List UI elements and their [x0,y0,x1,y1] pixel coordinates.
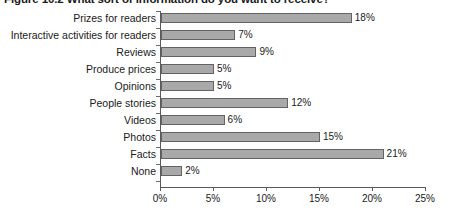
bar-value-label: 2% [185,165,199,176]
category-label: Prizes for readers [73,12,156,24]
figure-bar-chart: Figure 10.2 What sort of information do … [0,0,450,218]
x-tick-label: 20% [362,193,382,204]
category-label: None [131,165,156,177]
category-label: Videos [124,114,156,126]
bar-value-label: 6% [228,114,242,125]
bar [161,81,214,91]
category-label: People stories [89,97,156,109]
bar-value-label: 18% [355,12,375,23]
bar [161,64,214,74]
x-tick-label: 25% [415,193,435,204]
x-tick-mark [160,187,161,191]
bar-row: Prizes for readers18% [0,11,450,28]
bar [161,98,288,108]
bar-row: Reviews9% [0,45,450,62]
x-tick-label: 10% [256,193,276,204]
x-tick-mark [425,187,426,191]
bar-value-label: 5% [217,63,231,74]
bar [161,13,352,23]
bar-value-label: 7% [238,29,252,40]
bar-row: People stories12% [0,96,450,113]
bar [161,47,256,57]
bar [161,149,384,159]
chart-title: Figure 10.2 What sort of information do … [4,0,330,5]
bar-value-label: 15% [323,131,343,142]
bar [161,115,225,125]
bar-row: Photos15% [0,130,450,147]
bar-row: Interactive activities for readers7% [0,28,450,45]
bar [161,30,235,40]
x-tick-label: 5% [206,193,220,204]
bar-value-label: 12% [291,97,311,108]
bar-value-label: 5% [217,80,231,91]
x-tick-mark [372,187,373,191]
bar-row: None2% [0,164,450,181]
x-tick-label: 15% [309,193,329,204]
bar-row: Opinions5% [0,79,450,96]
category-label: Interactive activities for readers [11,29,156,41]
category-label: Photos [123,131,156,143]
category-label: Reviews [116,46,156,58]
bar [161,132,320,142]
bar-row: Videos6% [0,113,450,130]
category-label: Facts [130,148,156,160]
plot-area: 0%5%10%15%20%25% Prizes for readers18%In… [0,11,450,218]
bar-value-label: 9% [259,46,273,57]
x-tick-mark [266,187,267,191]
category-label: Opinions [115,80,156,92]
y-tick-mark [156,181,160,182]
bar-row: Produce prices5% [0,62,450,79]
bar [161,166,182,176]
bar-value-label: 21% [387,148,407,159]
x-tick-mark [319,187,320,191]
x-axis-line [160,187,426,188]
x-tick-label: 0% [153,193,167,204]
bar-row: Facts21% [0,147,450,164]
category-label: Produce prices [86,63,156,75]
x-tick-mark [213,187,214,191]
